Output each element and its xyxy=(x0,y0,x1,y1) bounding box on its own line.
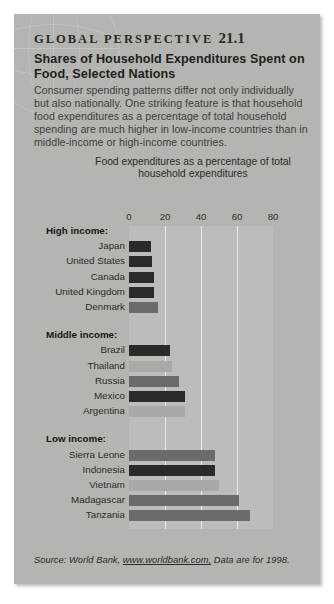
bar-label-united-states: United States xyxy=(14,255,125,266)
bar-denmark xyxy=(129,302,158,313)
bar-row: Denmark xyxy=(14,302,320,313)
bar-madagascar xyxy=(129,495,239,506)
bar-label-indonesia: Indonesia xyxy=(14,464,125,475)
x-tick-80: 80 xyxy=(268,211,279,222)
bar-label-united-kingdom: United Kingdom xyxy=(14,286,125,297)
group-label: High income: xyxy=(46,225,157,236)
group-header-row: Low income: xyxy=(14,434,320,445)
bar-row: Madagascar xyxy=(14,495,320,506)
bar-label-argentina: Argentina xyxy=(14,405,125,416)
bar-label-japan: Japan xyxy=(14,240,125,251)
global-perspective-box: GLOBAL PERSPECTIVE 21.1 Shares of Househ… xyxy=(14,14,320,584)
source-note: Source: World Bank, www.worldbank.com, D… xyxy=(34,555,314,565)
source-suffix: Data are for 1998. xyxy=(211,555,289,565)
globe-watermark-line-horizontal xyxy=(14,48,118,49)
bar-canada xyxy=(129,272,154,283)
bar-label-denmark: Denmark xyxy=(14,301,125,312)
source-prefix: Source: World Bank, xyxy=(34,555,123,565)
bar-sierra-leone xyxy=(129,450,215,461)
bar-label-tanzania: Tanzania xyxy=(14,509,125,520)
bar-row: Argentina xyxy=(14,406,320,417)
chart-plot-wrapper: 020406080 High income:JapanUnited States… xyxy=(14,211,320,541)
chart-title: Food expenditures as a percentage of tot… xyxy=(34,156,310,181)
group-label: Low income: xyxy=(46,433,157,444)
x-tick-40: 40 xyxy=(196,211,207,222)
bar-label-sierra-leone: Sierra Leone xyxy=(14,449,125,460)
bar-row: Vietnam xyxy=(14,480,320,491)
x-tick-60: 60 xyxy=(232,211,243,222)
box-kicker: GLOBAL PERSPECTIVE 21.1 xyxy=(34,30,245,47)
bar-indonesia xyxy=(129,465,215,476)
bar-row: Thailand xyxy=(14,361,320,372)
bar-label-madagascar: Madagascar xyxy=(14,494,125,505)
source-link[interactable]: www.worldbank.com, xyxy=(123,555,211,565)
group-header-row: High income: xyxy=(14,226,320,237)
bar-row: Canada xyxy=(14,272,320,283)
bar-row: Sierra Leone xyxy=(14,450,320,461)
bar-united-states xyxy=(129,256,152,267)
bar-label-russia: Russia xyxy=(14,375,125,386)
bar-japan xyxy=(129,241,151,252)
bar-argentina xyxy=(129,406,185,417)
bar-row: Tanzania xyxy=(14,510,320,521)
bar-row: Brazil xyxy=(14,345,320,356)
bar-brazil xyxy=(129,345,170,356)
bar-label-brazil: Brazil xyxy=(14,344,125,355)
box-title: Shares of Household Expenditures Spent o… xyxy=(34,52,306,81)
bar-vietnam xyxy=(129,480,219,491)
bar-label-mexico: Mexico xyxy=(14,390,125,401)
bar-label-vietnam: Vietnam xyxy=(14,479,125,490)
figure-page: GLOBAL PERSPECTIVE 21.1 Shares of Househ… xyxy=(0,0,334,604)
group-label: Middle income: xyxy=(46,329,157,340)
bar-label-thailand: Thailand xyxy=(14,360,125,371)
bar-row: Indonesia xyxy=(14,465,320,476)
bar-rows: High income:JapanUnited StatesCanadaUnit… xyxy=(14,226,320,529)
bar-label-canada: Canada xyxy=(14,271,125,282)
group-header-row: Middle income: xyxy=(14,330,320,341)
bar-russia xyxy=(129,376,179,387)
bar-row: Japan xyxy=(14,241,320,252)
bar-row: United States xyxy=(14,256,320,267)
bar-row: United Kingdom xyxy=(14,287,320,298)
bar-row: Russia xyxy=(14,376,320,387)
box-kicker-text: GLOBAL PERSPECTIVE xyxy=(34,32,213,46)
bar-row: Mexico xyxy=(14,391,320,402)
bar-tanzania xyxy=(129,510,250,521)
box-intro-paragraph: Consumer spending patterns differ not on… xyxy=(34,84,310,149)
x-tick-20: 20 xyxy=(160,211,171,222)
bar-thailand xyxy=(129,361,172,372)
x-tick-0: 0 xyxy=(126,211,131,222)
bar-mexico xyxy=(129,391,185,402)
bar-united-kingdom xyxy=(129,287,154,298)
box-number: 21.1 xyxy=(219,30,245,46)
x-axis-tick-labels: 020406080 xyxy=(129,211,289,224)
